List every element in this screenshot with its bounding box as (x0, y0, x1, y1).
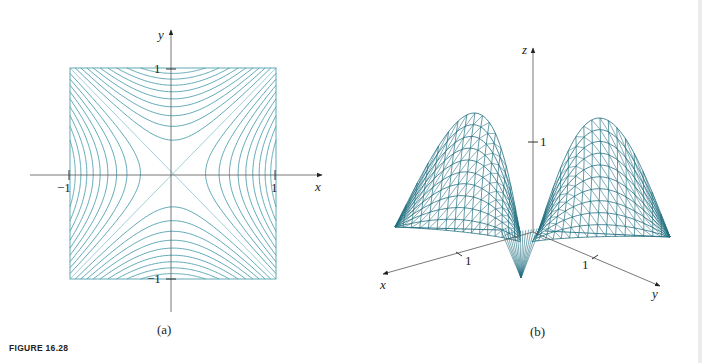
contour-line (70, 99, 100, 248)
x-tick-label-neg1: −1 (57, 180, 71, 195)
mesh-line (606, 121, 609, 237)
x-tick-label-3d: 1 (465, 253, 472, 268)
mesh-line (568, 146, 653, 236)
mesh-line (533, 240, 538, 241)
x-axis-label-3d: x (379, 277, 386, 292)
y-tick-label-1: 1 (154, 61, 161, 76)
contour-line (108, 255, 238, 279)
contour-line (253, 107, 276, 240)
mesh-line (597, 118, 601, 237)
y-tick-label-3d: 1 (582, 257, 589, 272)
y-axis-3d (533, 232, 660, 286)
y-tick-label-neg1: −1 (147, 271, 161, 286)
figure-canvas: −1 1 1 −1 x y (a) 1 1 1 x y z (b) FIGURE… (0, 0, 702, 363)
surface-mesh (395, 113, 670, 278)
contour-line (70, 140, 75, 207)
x-tick-label-1: 1 (271, 180, 278, 195)
contour-lines (70, 68, 276, 279)
contour-plot-panel: −1 1 1 −1 x y (a) (30, 27, 322, 337)
x-axis-label: x (314, 179, 321, 194)
contour-line (100, 248, 246, 279)
contour-line (70, 79, 127, 268)
z-axis-label: z (521, 42, 527, 57)
z-tick-label: 1 (540, 134, 547, 149)
figure-caption: FIGURE 16.28 (9, 343, 68, 353)
contour-line (81, 68, 265, 126)
surface-plot-panel: 1 1 1 x y z (b) (379, 42, 670, 339)
contour-line (108, 68, 238, 92)
contour-line (246, 99, 276, 248)
contour-line (100, 68, 246, 99)
panel-a-label: (a) (157, 322, 171, 337)
contour-line (70, 107, 93, 240)
y-axis-label-3d: y (650, 286, 658, 301)
mesh-line (521, 228, 540, 278)
y-axis-label: y (156, 27, 164, 42)
contour-line (219, 79, 276, 268)
panel-b-label: (b) (530, 324, 545, 339)
contour-line (81, 221, 265, 279)
